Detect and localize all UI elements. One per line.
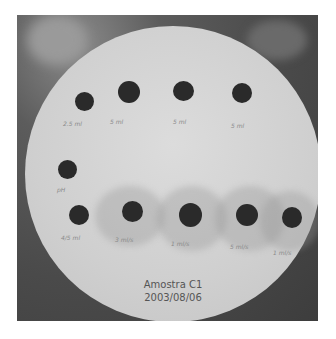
spot-label: 3 ml/s [115,236,133,243]
photo: 2.5 ml 5 ml 5 ml 5 ml pH 4/5 ml 3 ml/s 1… [17,15,318,321]
sample-disc: 2.5 ml 5 ml 5 ml 5 ml pH 4/5 ml 3 ml/s 1… [25,26,318,321]
sample-spot [282,207,302,228]
spot-label: 1 ml/s [171,240,189,247]
sample-spot [58,160,77,179]
sample-spot [69,205,89,225]
sample-spot [173,81,194,101]
spot-label: 5 ml [173,118,186,125]
sample-spot [122,201,143,222]
spot-label: 5 ml [110,118,123,125]
spot-label: pH [57,186,65,193]
caption-date: 2003/08/06 [25,291,318,304]
spot-label: 2.5 ml [63,120,82,127]
caption-sample: Amostra C1 [25,278,318,291]
spot-label: 5 ml/s [230,243,248,250]
sample-spot [236,204,258,226]
sample-spot [118,81,140,103]
spot-label: 4/5 ml [61,234,80,241]
sample-spot [232,83,252,103]
sample-spot [179,203,202,227]
spot-label: 5 ml [231,122,244,129]
sample-spot [75,92,94,111]
spot-label: 1 ml/s [273,249,291,256]
background-object [27,15,87,65]
